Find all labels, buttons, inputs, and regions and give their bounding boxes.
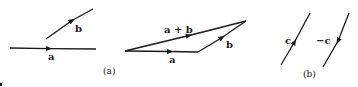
vector-b-separate — [46, 9, 93, 39]
caption-b: (b) — [303, 70, 316, 79]
label-b-separate: b — [75, 24, 82, 34]
vector-b-triangle — [198, 21, 246, 52]
label-c: c — [285, 36, 291, 46]
label-b-triangle: b — [226, 40, 233, 50]
label-a-separate: a — [48, 52, 54, 62]
label-a-plus-b: a + b — [164, 25, 193, 35]
vector-a-separate — [10, 48, 96, 49]
caption-a: (a) — [103, 67, 115, 76]
label-a-triangle: a — [169, 55, 175, 65]
label-neg-c: −c — [316, 36, 330, 46]
vector-a-triangle — [125, 51, 198, 52]
edge-mark — [0, 83, 2, 86]
